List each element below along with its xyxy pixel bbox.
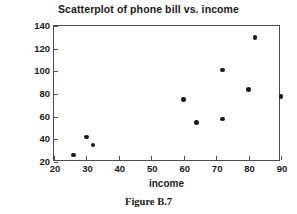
- y-axis-tick-label: 20: [39, 156, 50, 167]
- y-axis-tick-label: 120: [34, 43, 50, 54]
- y-axis-tick-label: 40: [39, 133, 50, 144]
- data-point: [91, 143, 96, 148]
- data-point: [84, 135, 89, 140]
- x-axis-tick-label: 90: [277, 163, 288, 174]
- plot-area: 20406080100120140 2030405060708090: [53, 25, 280, 161]
- data-point: [181, 97, 186, 102]
- data-point: [246, 87, 251, 92]
- y-axis-tick-label: 60: [39, 111, 50, 122]
- data-point: [253, 35, 258, 40]
- x-axis-tick-label: 60: [179, 163, 190, 174]
- x-axis-tick-label: 50: [147, 163, 158, 174]
- x-axis-tick: 90: [281, 156, 282, 160]
- x-axis-tick-label: 80: [244, 163, 255, 174]
- figure-container: Scatterplot of phone bill vs. income 204…: [0, 0, 297, 214]
- y-axis-tick-label: 100: [34, 65, 50, 76]
- data-point: [194, 120, 199, 125]
- data-point: [71, 153, 76, 158]
- data-point: [220, 117, 225, 122]
- y-axis-tick-label: 80: [39, 88, 50, 99]
- data-point: [279, 94, 284, 99]
- scatter-series: [54, 26, 279, 160]
- data-point: [220, 68, 225, 73]
- x-axis-tick-label: 40: [115, 163, 126, 174]
- x-axis-tick-label: 20: [50, 163, 61, 174]
- x-axis-title: income: [53, 178, 280, 189]
- x-axis-tick-label: 30: [82, 163, 93, 174]
- chart-title: Scatterplot of phone bill vs. income: [0, 3, 297, 15]
- y-axis-tick-label: 140: [34, 20, 50, 31]
- x-axis-tick-label: 70: [212, 163, 223, 174]
- figure-caption: Figure B.7: [0, 196, 297, 207]
